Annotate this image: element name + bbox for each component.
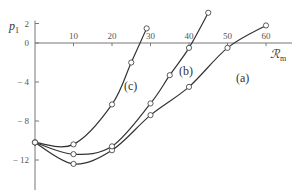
y-axis-label: p1 [8,19,19,35]
data-point-marker [148,101,153,106]
series-line [35,13,208,155]
series-label: (a) [236,71,249,85]
data-point-marker [206,10,211,15]
data-point-marker [129,60,134,65]
data-point-marker [186,84,191,89]
y-tick-label: 2 [25,19,30,29]
x-tick-label: 20 [108,31,118,41]
series-label: (b) [179,64,193,78]
data-point-marker [186,45,191,50]
y-tick-label: − 12 [13,155,29,165]
data-point-marker [32,140,37,145]
x-tick-label: 40 [185,31,195,41]
data-point-marker [109,144,114,149]
y-tick-label: − 8 [17,116,29,126]
y-tick-label: − 4 [17,77,29,87]
series-label: (c) [124,79,137,93]
data-point-marker [71,152,76,157]
x-tick-label: 50 [223,31,233,41]
data-point-marker [225,45,230,50]
data-point-marker [144,26,149,31]
data-point-marker [109,102,114,107]
data-point-marker [263,23,268,28]
y-tick-label: 0 [25,38,30,48]
x-tick-label: 30 [146,31,156,41]
data-point-marker [71,161,76,166]
data-point-marker [71,142,76,147]
data-point-marker [148,113,153,118]
series-line [35,25,266,164]
x-tick-label: 60 [262,31,272,41]
line-chart: 10203040506020− 4− 8− 12p1ℛm (a)(b)(c) [0,0,304,194]
data-point-marker [167,73,172,78]
x-tick-label: 10 [69,31,79,41]
x-axis-label: ℛm [270,47,287,63]
